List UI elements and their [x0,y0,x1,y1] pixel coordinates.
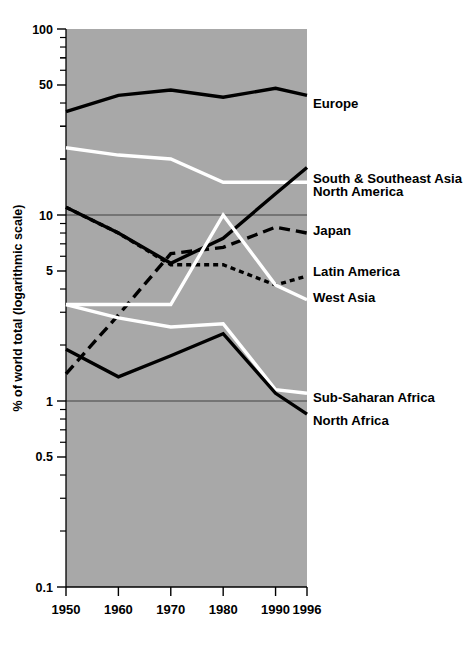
series-label: Europe [313,96,358,111]
chart-figure: 1005010510.50.1 195019601970198019901996… [0,0,471,650]
y-axis-tick-label: 1 [46,395,53,409]
x-axis-tick-label: 1980 [209,602,238,617]
chart-svg: 1005010510.50.1 195019601970198019901996… [0,0,471,650]
series-label: Latin America [313,264,400,279]
x-axis-tick-label: 1990 [261,602,290,617]
x-axis-tick-label: 1960 [104,602,133,617]
y-axis-tick-label: 10 [39,209,53,223]
y-axis-tick-label: 100 [32,23,53,37]
y-axis-tick-label: 0.5 [36,450,53,464]
series-label: Sub-Saharan Africa [313,390,436,405]
x-axis-tick-label: 1950 [52,602,81,617]
x-axis-tick-label: 1996 [293,602,322,617]
y-axis-tick-label: 5 [46,264,53,278]
y-axis-tick-label: 50 [39,78,53,92]
series-label: Japan [313,223,351,238]
series-label: North America [313,184,404,199]
y-axis-title: % of world total (logarithmic scale) [11,205,25,412]
plot-area-background [66,29,307,587]
series-label: West Asia [313,290,376,305]
y-axis-tick-label: 0.1 [36,581,53,595]
series-label: North Africa [313,413,389,428]
x-axis-tick-label: 1970 [156,602,185,617]
